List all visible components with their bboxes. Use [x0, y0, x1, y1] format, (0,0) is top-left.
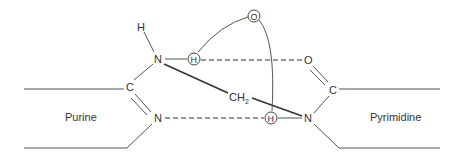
diagram-canvas: H N H O O C C CH2 N H N Purine Pyrimidin…	[0, 0, 462, 162]
atom-n-lower-left: N	[154, 112, 162, 124]
bond-ch2-nlowerright	[252, 98, 302, 116]
atom-h-top: H	[137, 21, 145, 33]
bond-c-nupper	[134, 64, 153, 80]
bond-nlower-backbone	[127, 124, 152, 148]
atom-c-left: C	[126, 81, 134, 93]
atom-ch2: CH2	[229, 91, 249, 105]
bond-h-nupper	[144, 32, 154, 52]
double-bond-o-c-2	[310, 70, 325, 85]
atom-n-upper: N	[154, 53, 162, 65]
bond-nlowerright-backbone	[314, 124, 339, 148]
label-purine: Purine	[65, 111, 97, 123]
atom-o-right: O	[304, 54, 313, 66]
atom-h-upper-circled: H	[191, 55, 198, 65]
atom-c-right: C	[329, 84, 337, 96]
curve-h-to-o	[198, 17, 248, 52]
double-bond-o-c-1	[313, 66, 328, 82]
base-pair-diagram: H N H O O C C CH2 N H N Purine Pyrimidin…	[0, 0, 462, 162]
bond-nlowerright-cright	[314, 96, 329, 113]
label-pyrimidine: Pyrimidine	[370, 111, 421, 123]
bond-nupper-ch2	[164, 64, 228, 93]
double-bond-c-nlower-2	[131, 98, 147, 115]
double-bond-c-nlower-1	[135, 94, 151, 112]
atom-o-top-circled: O	[251, 12, 258, 22]
atom-h-lower-circled: H	[268, 114, 275, 124]
atom-n-lower-right: N	[304, 112, 312, 124]
curve-o-to-h	[259, 20, 273, 111]
